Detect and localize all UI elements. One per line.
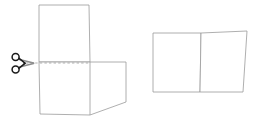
diagram-svg: [0, 0, 258, 127]
scissors-pivot: [24, 62, 26, 64]
left-shape-group: [26, 5, 126, 115]
diagram-canvas: [0, 0, 258, 127]
scissors-hole-upper: [12, 54, 19, 61]
scissors-hole-lower: [12, 66, 19, 73]
lower-piece-shape[interactable]: [39, 62, 126, 115]
right-shape-group: [153, 31, 247, 92]
rearranged-left-piece-shape[interactable]: [153, 33, 201, 92]
rearranged-right-piece-shape[interactable]: [200, 31, 247, 92]
upper-piece-shape[interactable]: [39, 5, 90, 62]
scissors-icon[interactable]: [12, 54, 33, 73]
